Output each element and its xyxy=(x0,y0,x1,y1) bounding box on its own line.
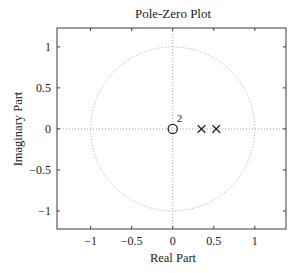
y-tick-label: −0.5 xyxy=(29,163,51,177)
x-tick-label: −1 xyxy=(84,234,97,248)
pole-zero-chart: Pole-Zero Plot −1−0.500.51 10.50−0.5−1 2… xyxy=(0,0,302,273)
x-axis-ticks: −1−0.500.51 xyxy=(84,28,258,248)
y-tick-label: −1 xyxy=(38,204,51,218)
unit-circle xyxy=(91,47,255,211)
y-tick-label: 1 xyxy=(45,40,51,54)
y-axis-label: Imaginary Part xyxy=(11,91,25,166)
chart-title: Pole-Zero Plot xyxy=(135,6,212,21)
y-axis-ticks: 10.50−0.5−1 xyxy=(29,40,286,218)
x-tick-label: −0.5 xyxy=(121,234,143,248)
multiplicity-label: 2 xyxy=(177,112,183,124)
zero-marker-icon xyxy=(168,124,177,133)
x-tick-label: 1 xyxy=(252,234,258,248)
x-axis-label: Real Part xyxy=(150,251,197,265)
y-tick-label: 0.5 xyxy=(36,81,51,95)
pole-zero-markers: 2 xyxy=(168,112,220,134)
guides xyxy=(57,28,286,229)
x-tick-label: 0.5 xyxy=(206,234,221,248)
x-tick-label: 0 xyxy=(170,234,176,248)
y-tick-label: 0 xyxy=(45,122,51,136)
